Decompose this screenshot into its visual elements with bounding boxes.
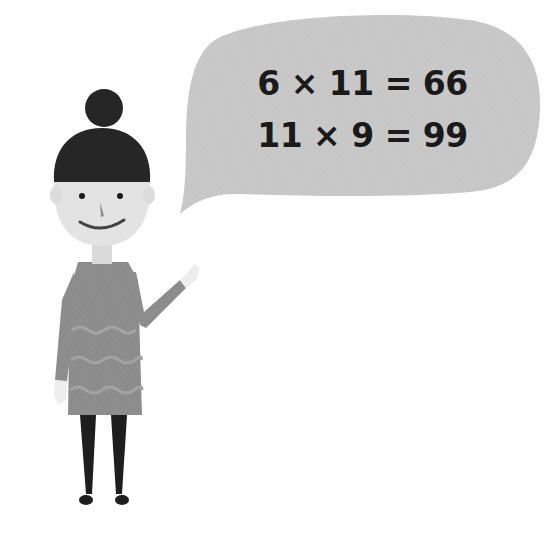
equation-line-1: 6 × 11 = 66 <box>230 64 495 103</box>
left-hand <box>54 381 67 405</box>
hair <box>54 128 150 182</box>
right-eye <box>117 193 123 199</box>
right-ear <box>143 186 155 204</box>
left-shoe <box>79 495 93 505</box>
hair-bun <box>85 89 123 127</box>
speech-bubble <box>180 15 540 214</box>
right-shoe <box>115 495 129 505</box>
left-ear <box>50 186 62 204</box>
right-leg <box>111 415 127 494</box>
equation-line-2: 11 × 9 = 99 <box>230 116 495 155</box>
illustration: 6 × 11 = 66 11 × 9 = 99 <box>0 0 546 544</box>
left-leg <box>80 415 96 494</box>
left-eye <box>79 193 85 199</box>
